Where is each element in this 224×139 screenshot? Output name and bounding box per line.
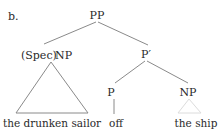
edge-p-bar-np <box>147 61 188 83</box>
leaf-off: off <box>109 117 124 129</box>
example-label: b. <box>8 10 19 23</box>
node-object-np: NP <box>179 86 197 99</box>
node-p: P <box>107 86 115 99</box>
node-spec-label: (Spec) <box>21 49 57 62</box>
edge-p-bar-p <box>115 61 145 83</box>
node-p-bar: P′ <box>141 48 151 61</box>
node-pp: PP <box>90 9 105 22</box>
triangle-object-np <box>178 99 201 113</box>
node-spec-np: NP <box>55 49 73 62</box>
leaf-the-ship: the ship <box>175 117 218 129</box>
leaf-the-drunken-sailor: the drunken sailor <box>3 117 102 129</box>
edge-pp-spec-np <box>44 22 96 44</box>
triangle-spec-np <box>16 62 88 113</box>
edge-pp-p-bar <box>98 22 148 45</box>
syntax-tree-diagram: b. PP (Spec) NP the drunken sailor P′ P … <box>0 0 224 139</box>
